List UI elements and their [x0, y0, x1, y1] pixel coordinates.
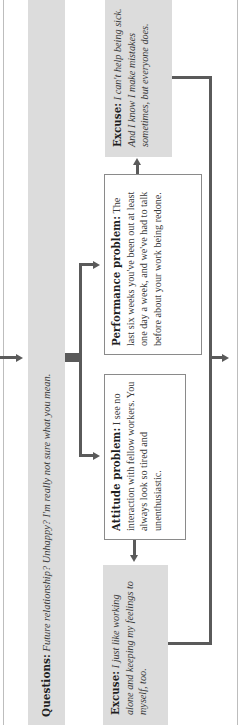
- attitude-to-excuse-connector: [133, 540, 136, 555]
- attitude-problem-label: Attitude problem:: [110, 428, 122, 531]
- flow-diagram: Questions: Future relationship? Unhappy?…: [0, 0, 249, 725]
- excuse-performance-box: Excuse: I can't help being sick. And I k…: [105, 0, 172, 157]
- incoming-connector: [0, 356, 16, 359]
- excuse-attitude-box: Excuse: I just like working alone and ke…: [103, 565, 168, 725]
- split-leg-performance: [79, 263, 94, 266]
- questions-label: Questions:: [40, 654, 52, 717]
- frame-line-bottom: [237, 0, 238, 725]
- performance-to-excuse-connector: [136, 164, 139, 174]
- excuse-performance-label: Excuse:: [111, 103, 123, 147]
- excuse-attitude-label: Excuse:: [109, 671, 121, 715]
- split-bracket: [79, 263, 82, 457]
- questions-stub: [65, 353, 80, 362]
- attitude-to-excuse-arrow-icon: [130, 555, 138, 562]
- performance-problem-box: Performance problem: The last six weeks …: [104, 174, 202, 355]
- frame-line-top: [3, 0, 4, 725]
- arrow-to-attitude-icon: [93, 452, 100, 460]
- questions-band: Questions: Future relationship? Unhappy?…: [28, 0, 65, 725]
- questions-body: Future relationship? Unhappy? I'm really…: [41, 374, 52, 652]
- attitude-problem-box: Attitude problem: I see no interaction w…: [104, 374, 186, 540]
- arrow-to-performance-icon: [93, 261, 100, 269]
- loop-leg-performance-excuse: [172, 76, 212, 79]
- outgoing-arrow-icon: [222, 354, 229, 362]
- loop-line-main: [209, 76, 212, 645]
- questions-text: Questions: Future relationship? Unhappy?…: [40, 374, 54, 717]
- split-leg-attitude: [79, 454, 94, 457]
- loop-leg-attitude-excuse: [168, 642, 212, 645]
- performance-problem-label: Performance problem:: [110, 216, 122, 346]
- incoming-arrow-icon: [16, 354, 23, 362]
- performance-to-excuse-arrow-icon: [133, 158, 141, 165]
